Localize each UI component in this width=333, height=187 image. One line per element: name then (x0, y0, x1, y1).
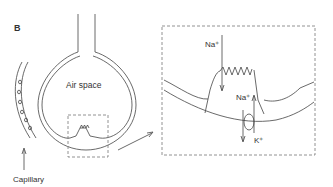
enlarged-cell (205, 70, 264, 114)
red-blood-cells (18, 80, 32, 130)
pump-channel (244, 114, 254, 130)
na-mid-label: Na⁺ (236, 93, 250, 102)
alveolus-wall-outer (38, 52, 136, 150)
alveolus-diagram (0, 0, 333, 187)
zoom-region-box (68, 115, 108, 157)
microvilli-small (80, 125, 89, 128)
enlarged-wall-top-left (164, 80, 208, 99)
microvilli-large (220, 67, 252, 75)
na-top-label: Na⁺ (205, 40, 219, 49)
enlarged-view-box (162, 26, 315, 155)
na-in-arrow (220, 35, 224, 91)
k-label: K⁺ (254, 136, 263, 145)
panel-label: B (14, 23, 21, 33)
enlarged-wall-top-right (264, 82, 314, 101)
capillary-arrow (22, 148, 26, 170)
capillary-label: Capillary (13, 175, 44, 184)
capillary-wall (15, 62, 36, 138)
airway-tube (78, 14, 95, 52)
air-space-label: Air space (66, 80, 101, 90)
